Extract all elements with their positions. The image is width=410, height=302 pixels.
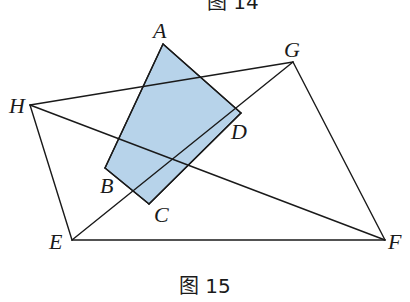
label-h: H — [8, 93, 26, 118]
segment-gf — [293, 62, 385, 240]
label-g: G — [284, 37, 300, 62]
label-c: C — [154, 202, 169, 227]
label-f: F — [387, 229, 402, 254]
label-a: A — [151, 18, 167, 43]
label-e: E — [48, 229, 63, 254]
label-d: D — [230, 119, 247, 144]
label-b: B — [100, 173, 113, 198]
geometry-figure: 图 14 A G H D B C E F 图 15 — [0, 0, 410, 302]
figure-caption: 图 15 — [179, 274, 231, 298]
previous-figure-caption: 图 14 — [207, 0, 259, 14]
segment-he — [30, 105, 72, 240]
